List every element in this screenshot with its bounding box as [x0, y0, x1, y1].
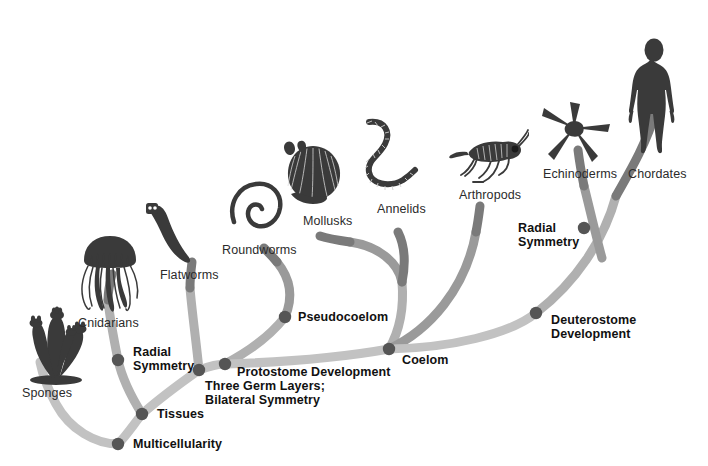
- flatworm-icon: [140, 200, 198, 268]
- trait-label-protostome-development: Protostome Development: [237, 365, 391, 379]
- trait-label-tissues: Tissues: [157, 407, 204, 421]
- trait-label-multicellularity: Multicellularity: [133, 437, 222, 451]
- mollusk-icon: [283, 140, 345, 212]
- taxon-label-arthropods: Arthropods: [459, 188, 521, 202]
- trait-label-deuterostome-development: Deuterostome Development: [551, 313, 636, 341]
- taxon-label-echinoderms: Echinoderms: [543, 167, 617, 181]
- trait-label-coelom: Coelom: [402, 353, 448, 367]
- jellyfish-icon: [74, 232, 146, 316]
- branch-mollusk-annelid: [350, 242, 402, 282]
- arthropod-icon: [443, 128, 529, 186]
- taxon-label-chordates: Chordates: [628, 167, 687, 181]
- branch-roundworms: [277, 262, 290, 317]
- trait-node-multicellularity[interactable]: [112, 438, 124, 450]
- branch-mollusks: [320, 236, 350, 242]
- phylogenetic-tree-figure: SpongesCnidariansFlatwormsRoundwormsMoll…: [0, 0, 708, 466]
- trait-label-pseudocoelom: Pseudocoelom: [298, 310, 388, 324]
- taxon-label-mollusks: Mollusks: [303, 214, 352, 228]
- chordate-human-icon: [626, 38, 682, 156]
- trait-label-radial-symmetry-right: Radial Symmetry: [518, 221, 579, 249]
- echinoderm-icon: [534, 98, 614, 168]
- taxon-label-roundworms: Roundworms: [222, 243, 297, 257]
- trait-node-radial-symmetry-right[interactable]: [578, 222, 590, 234]
- taxon-label-annelids: Annelids: [377, 202, 426, 216]
- trait-label-three-germ-layers: Three Germ Layers; Bilateral Symmetry: [205, 379, 325, 407]
- trait-node-coelom[interactable]: [383, 343, 395, 355]
- branch-pseudo: [225, 317, 285, 364]
- taxon-label-sponges: Sponges: [22, 386, 72, 400]
- trait-label-radial-symmetry-left: Radial Symmetry: [133, 345, 194, 373]
- taxon-label-flatworms: Flatworms: [160, 268, 219, 282]
- trait-node-three-germ-layers[interactable]: [193, 364, 205, 376]
- branch-arthropod-stem: [476, 206, 480, 232]
- branch-annelids: [398, 232, 404, 282]
- trait-node-pseudocoelom[interactable]: [279, 311, 291, 323]
- trait-node-tissues[interactable]: [136, 408, 148, 420]
- annelid-icon: [355, 118, 419, 200]
- trait-node-protostome-development[interactable]: [219, 358, 231, 370]
- trait-node-radial-symmetry-left[interactable]: [112, 354, 124, 366]
- roundworm-icon: [226, 178, 288, 240]
- taxon-label-cnidarians: Cnidarians: [78, 316, 139, 330]
- trait-node-deuterostome-development[interactable]: [530, 307, 542, 319]
